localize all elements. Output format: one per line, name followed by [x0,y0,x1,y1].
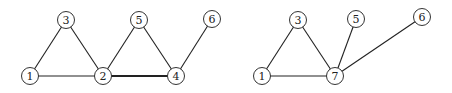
node-4: 4 [168,68,185,85]
graph-contraction-diagram: 132546 13567 [0,0,452,93]
edge-3-7 [298,20,335,76]
edge-4-6 [176,19,212,76]
node-5: 5 [348,11,365,28]
node-label: 7 [332,70,339,83]
node-6: 6 [204,11,221,28]
node-label: 6 [419,11,426,24]
node-3: 3 [290,12,307,29]
edge-2-5 [103,20,139,76]
edge-7-6 [335,17,422,76]
diagram-svg: 132546 13567 [0,0,452,93]
node-label: 6 [209,13,216,26]
edge-1-3 [262,20,298,76]
edge-5-4 [139,20,176,76]
node-label: 4 [173,70,180,83]
node-1: 1 [254,68,271,85]
left-graph-before-contraction: 132546 [22,11,221,85]
right-graph-after-contraction: 13567 [254,9,431,85]
node-7: 7 [327,68,344,85]
node-label: 3 [63,14,70,27]
node-2: 2 [95,68,112,85]
node-label: 5 [353,13,360,26]
edge-1-3 [30,20,66,76]
node-label: 2 [100,70,107,83]
node-label: 1 [259,70,266,83]
node-label: 3 [295,14,302,27]
node-1: 1 [22,68,39,85]
node-3: 3 [58,12,75,29]
node-6: 6 [414,9,431,26]
edge-3-2 [66,20,103,76]
edge-7-5 [335,19,356,76]
node-label: 5 [136,14,143,27]
node-5: 5 [131,12,148,29]
node-label: 1 [27,70,34,83]
